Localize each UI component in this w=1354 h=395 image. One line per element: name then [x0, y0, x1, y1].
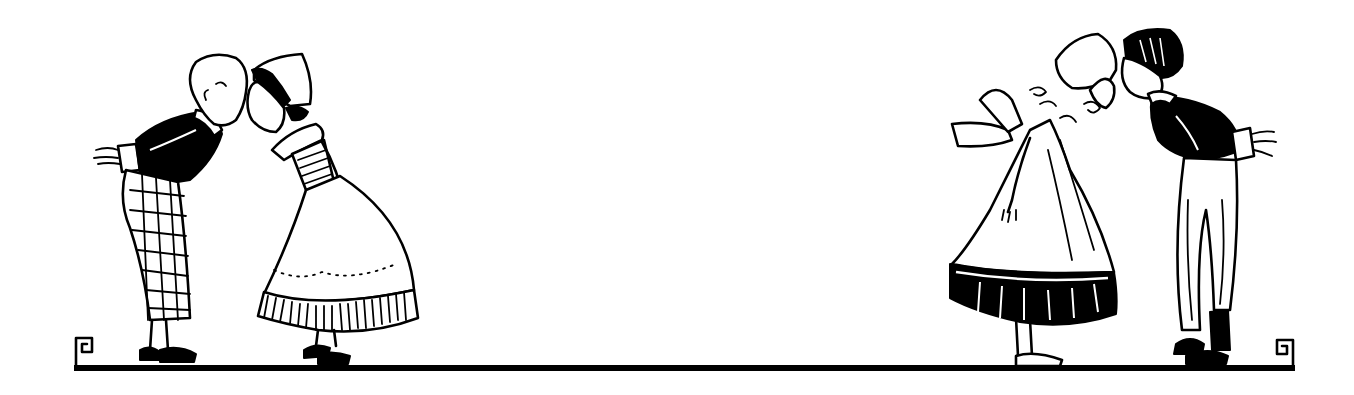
left-girl-figure: [248, 54, 419, 364]
right-couple: [950, 29, 1276, 366]
right-boy-figure: [1122, 29, 1276, 364]
left-boy-figure: [94, 55, 247, 362]
right-girl-figure: [950, 34, 1117, 366]
baseline: [74, 338, 1295, 371]
black-skirt-hem: [950, 264, 1117, 325]
checkered-trousers: [123, 170, 190, 320]
left-couple: [94, 54, 418, 364]
illustration: [0, 0, 1354, 395]
